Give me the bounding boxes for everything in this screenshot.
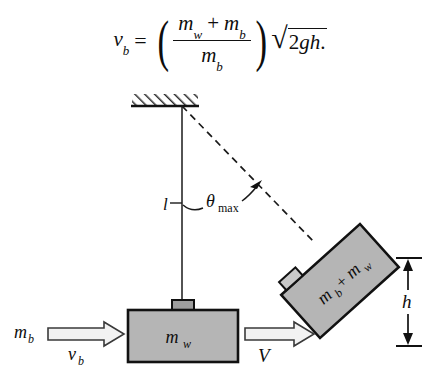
dashed-string [182,106,313,241]
ceiling-hatch-fill [132,94,198,106]
angle-label-subscript: max [218,201,239,215]
flat-block-group: m w [128,300,238,362]
incoming-velocity-arrow [48,322,124,346]
pendulum-diagram: l θ max m w m b + m w [0,0,440,380]
incoming-mass-subscript: b [28,332,34,346]
flat-block-body [128,310,238,362]
height-arrowhead-up [403,259,413,271]
height-dimension: h [396,258,422,346]
height-arrowhead-down [403,333,413,345]
tilted-block-group: m b + m w [274,216,399,338]
flat-block-label-subscript: w [183,337,191,351]
arrow-in-shape [48,322,124,346]
incoming-velocity-label: v [68,344,76,364]
incoming-mass-label: m [14,322,27,342]
ceiling-support [131,94,199,106]
angle-label-theta: θ [206,191,215,211]
figure-canvas: vb = ( mw+mb mb ) √ 2gh. [0,0,440,380]
incoming-velocity-subscript: b [78,354,84,368]
outgoing-velocity-arrow [245,322,314,346]
arrow-out-shape [245,322,314,346]
flat-block-label-m: m [166,327,179,347]
outgoing-velocity-label: V [258,345,272,366]
length-label-l: l [163,195,168,214]
angle-arc-left [183,205,203,210]
height-label-h: h [402,291,412,312]
